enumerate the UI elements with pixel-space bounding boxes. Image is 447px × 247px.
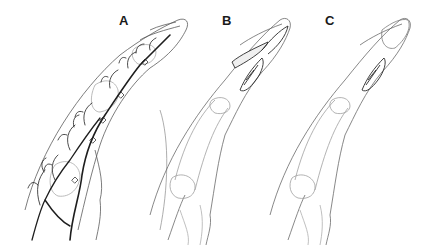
panel-c-finger-drawing — [0, 0, 447, 247]
medical-illustration: A B C — [0, 0, 447, 247]
